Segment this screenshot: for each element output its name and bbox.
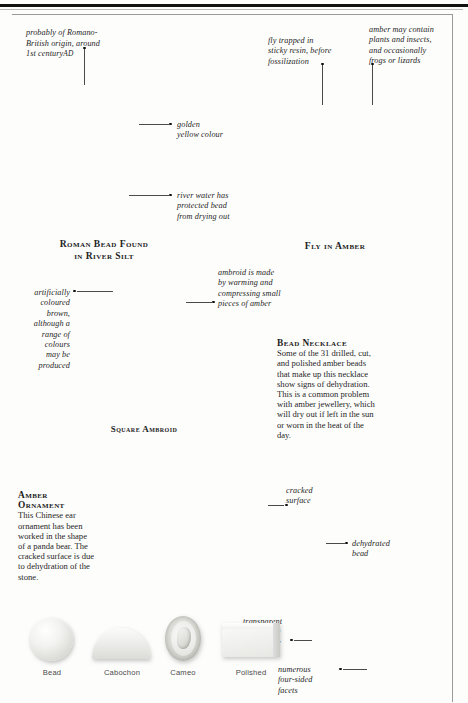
specimen-label-polished: Polished bbox=[222, 668, 280, 677]
leader-line-amber-contents bbox=[372, 65, 373, 105]
leader-dot-roman-colour bbox=[169, 123, 172, 126]
annotation-amber-contents: amber may contain plants and insects, an… bbox=[369, 25, 467, 67]
amber-ornament-title-line1: Amber bbox=[18, 490, 96, 500]
annotation-roman-origin-era: AD bbox=[63, 49, 73, 58]
caption-fly-in-amber: Fly in Amber bbox=[275, 240, 395, 252]
leader-line-transparent-beads bbox=[294, 640, 312, 641]
caption-roman-bead: Roman Bead Found in River Silt bbox=[14, 238, 194, 261]
annotation-fly-trapped: fly trapped in sticky resin, before foss… bbox=[268, 36, 368, 67]
specimen-label-cabochon: Cabochon bbox=[93, 668, 151, 677]
leader-dot-transparent-beads bbox=[290, 639, 293, 642]
amber-ornament-body: This Chinese ear ornament has been worke… bbox=[18, 510, 94, 581]
leader-line-four-sided-facets bbox=[343, 669, 367, 670]
leader-line-roman-river bbox=[129, 195, 169, 196]
leader-dot-dehydrated-bead bbox=[345, 542, 348, 545]
specimen-cabochon-shape bbox=[92, 628, 150, 659]
annotation-ambroid-made: ambroid is made by warming and compressi… bbox=[218, 268, 326, 310]
leader-dot-roman-river bbox=[169, 194, 172, 197]
leader-line-roman-origin bbox=[84, 49, 85, 85]
page-top-rule bbox=[0, 4, 468, 7]
specimen-polished-side-face bbox=[273, 623, 280, 657]
annotation-ambroid-coloured: artificially coloured brown, although a … bbox=[8, 288, 70, 371]
page-frame-top bbox=[12, 14, 453, 15]
leader-dot-four-sided-facets bbox=[339, 668, 342, 671]
leader-line-fly-trapped bbox=[322, 65, 323, 105]
specimen-bead-shape bbox=[30, 618, 73, 661]
bead-necklace-text-block: Bead Necklace Some of the 31 drilled, cu… bbox=[277, 338, 377, 440]
annotation-dehydrated-bead: dehydrated bead bbox=[352, 539, 422, 560]
specimen-polished-top-face bbox=[222, 623, 280, 629]
reference-page: probably of Romano- British origin, arou… bbox=[0, 0, 468, 703]
specimen-label-cameo: Cameo bbox=[157, 668, 209, 677]
page-frame-right bbox=[452, 14, 453, 702]
annotation-roman-river: river water has protected bead from dryi… bbox=[177, 191, 269, 222]
leader-line-dehydrated-bead bbox=[326, 543, 345, 544]
leader-line-ambroid-coloured bbox=[77, 291, 113, 292]
bead-necklace-body: Some of the 31 drilled, cut, and polishe… bbox=[277, 348, 375, 440]
annotation-roman-origin: probably of Romano- British origin, arou… bbox=[26, 18, 144, 60]
leader-line-roman-colour bbox=[139, 124, 169, 125]
leader-line-cracked-surface bbox=[268, 505, 284, 506]
annotation-roman-colour: golden yellow colour bbox=[177, 120, 263, 141]
annotation-cracked-surface: cracked surface bbox=[286, 486, 348, 507]
leader-dot-ambroid-coloured bbox=[73, 290, 76, 293]
specimen-label-bead: Bead bbox=[28, 668, 76, 677]
caption-square-ambroid: Square Ambroid bbox=[84, 424, 204, 436]
bead-necklace-title: Bead Necklace bbox=[277, 338, 377, 348]
leader-dot-ambroid-made bbox=[212, 301, 215, 304]
page-top-rule-thin bbox=[0, 9, 463, 10]
leader-line-ambroid-made bbox=[186, 302, 212, 303]
amber-ornament-title-line2: Ornament bbox=[18, 500, 96, 510]
amber-ornament-text-block: Amber Ornament This Chinese ear ornament… bbox=[18, 490, 96, 582]
leader-dot-cracked-surface bbox=[285, 504, 288, 507]
